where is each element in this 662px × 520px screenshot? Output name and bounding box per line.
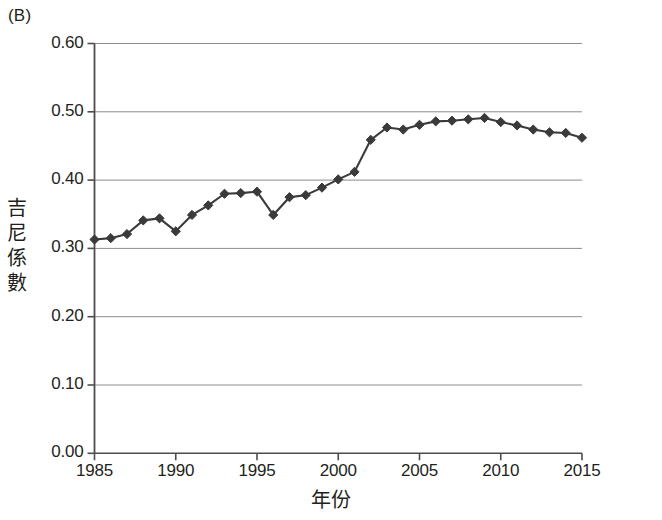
plot-svg [0,0,662,520]
data-point-marker [399,125,408,134]
data-point-marker [90,235,99,244]
data-point-marker [512,121,521,130]
data-point-marker [561,128,570,137]
data-point-marker [431,117,440,126]
data-point-marker [577,133,586,142]
data-point-marker [350,167,359,176]
data-point-marker [496,117,505,126]
data-point-marker [301,191,310,200]
data-point-marker [480,113,489,122]
data-point-marker [236,188,245,197]
data-point-marker [529,125,538,134]
data-point-marker [334,175,343,184]
data-point-marker [106,234,115,243]
line-chart [0,0,662,520]
data-point-marker [415,120,424,129]
data-point-marker [464,115,473,124]
data-point-marker [447,116,456,125]
data-point-marker [545,128,554,137]
data-point-marker [317,183,326,192]
